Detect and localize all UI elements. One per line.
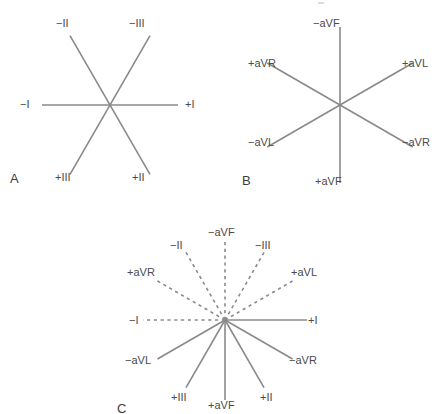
axis-label-plus-i: +I — [185, 99, 194, 110]
axis-lead-III-negative — [225, 252, 264, 320]
axis-label-minus-iii: −III — [129, 18, 145, 29]
axis-label-plus-avf: +aVF — [208, 400, 235, 411]
axis-lead-aVL-negative — [157, 281, 225, 320]
axis-label-plus-iii: +III — [55, 172, 71, 183]
axis-label-minus-i: −I — [129, 315, 138, 326]
panel-letter-b: B — [242, 174, 251, 187]
panel-letter-c: C — [117, 402, 126, 414]
axis-label-plus-ii: +II — [132, 172, 145, 183]
axis-label-minus-ii: −II — [56, 18, 69, 29]
panel-a-axes-diagram — [0, 0, 215, 200]
axis-label-minus-avr: −aVR — [402, 137, 430, 148]
axis-label-plus-ii: +II — [260, 392, 273, 403]
axis-label-plus-iii: +III — [171, 392, 187, 403]
axis-label-plus-avl: +aVL — [402, 58, 428, 69]
panel-c-hexaxial-reference-system: −aVF−II−III+aVR+aVL−I+I−aVL−aVR+III+aVF+… — [105, 220, 350, 414]
axis-label-minus-avl: −aVL — [248, 137, 274, 148]
axis-label-plus-i: +I — [308, 315, 317, 326]
axis-lead-aVL-positive — [225, 320, 293, 359]
axis-label-minus-i: −I — [20, 99, 29, 110]
panel-b-augmented-limb-leads: −aVF+aVR+aVL−aVL−aVR+aVF B — [230, 0, 443, 200]
panel-b-axes-diagram — [230, 0, 443, 200]
axis-label-minus-avl: −aVL — [125, 355, 151, 366]
axis-lead-aVR-negative — [225, 281, 293, 320]
axis-label-minus-ii: −II — [170, 240, 183, 251]
axis-label-minus-avr: −aVR — [289, 355, 317, 366]
axis-label-plus-avf: +aVF — [315, 176, 342, 187]
axis-lead-aVR-positive — [157, 320, 225, 359]
axis-label-minus-avf: −aVF — [208, 227, 235, 238]
axis-lead-II-negative — [186, 252, 225, 320]
axis-label-plus-avr: +aVR — [127, 267, 155, 278]
axis-label-minus-avf: −aVF — [313, 18, 340, 29]
panel-letter-a: A — [10, 172, 19, 185]
axis-lead-II-positive — [225, 320, 264, 388]
axis-label-plus-avl: +aVL — [291, 267, 317, 278]
panel-a-bipolar-limb-leads: −II−III−I+I+III+II A — [0, 0, 215, 200]
axis-lead-III-positive — [186, 320, 225, 388]
axis-label-minus-iii: −III — [255, 240, 271, 251]
axis-label-plus-avr: +aVR — [248, 58, 276, 69]
ecg-hexaxial-figure: −II−III−I+I+III+II A −aVF+aVR+aVL−aVL−aV… — [0, 0, 443, 414]
